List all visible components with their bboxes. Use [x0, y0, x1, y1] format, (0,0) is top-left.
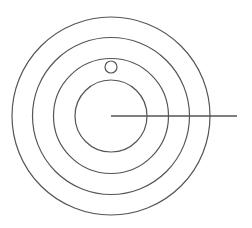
small-circle	[105, 61, 117, 73]
concentric-circles-diagram	[0, 0, 252, 228]
